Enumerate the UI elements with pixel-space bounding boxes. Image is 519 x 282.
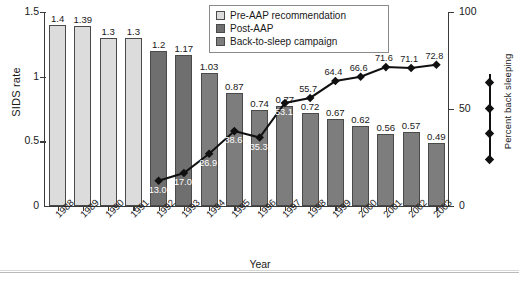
marker-key-diamond-icon <box>484 74 495 85</box>
legend: Pre-AAP recommendationPost-AAPBack-to-sl… <box>209 5 389 53</box>
legend-item-bts: Back-to-sleep campaign <box>216 35 382 48</box>
line-value-label: 55.7 <box>299 84 317 94</box>
legend-swatch-icon <box>216 24 225 33</box>
line-value-label: 13.0 <box>149 185 167 195</box>
legend-swatch-icon <box>216 37 225 46</box>
legend-item-label: Pre-AAP recommendation <box>230 10 346 21</box>
line-value-label: 35.3 <box>250 142 268 152</box>
line-value-label: 26.9 <box>199 158 217 168</box>
line-value-label: 17.0 <box>174 177 192 187</box>
line-value-label: 71.1 <box>400 54 418 64</box>
line-value-label: 64.4 <box>324 67 342 77</box>
legend-item-pre: Pre-AAP recommendation <box>216 9 382 22</box>
marker-key-diamond-icon <box>484 151 495 162</box>
legend-swatch-icon <box>216 11 225 20</box>
marker-key-diamond-icon <box>484 100 495 111</box>
footer-divider <box>0 272 519 273</box>
percent-back-sleeping-marker-key <box>483 74 497 162</box>
line-value-label: 72.8 <box>425 51 443 61</box>
line-value-label: 71.6 <box>375 53 393 63</box>
footer-divider-light <box>0 270 519 271</box>
chart-figure: SIDS rate Percent back sleeping Year 00.… <box>0 0 519 282</box>
line-value-label: 38.6 <box>224 135 242 145</box>
legend-item-post: Post-AAP <box>216 22 382 35</box>
line-value-label: 66.6 <box>350 63 368 73</box>
line-value-label: 53.1 <box>275 107 293 117</box>
legend-item-label: Back-to-sleep campaign <box>230 36 337 47</box>
marker-key-diamond-icon <box>484 125 495 136</box>
legend-item-label: Post-AAP <box>230 23 273 34</box>
